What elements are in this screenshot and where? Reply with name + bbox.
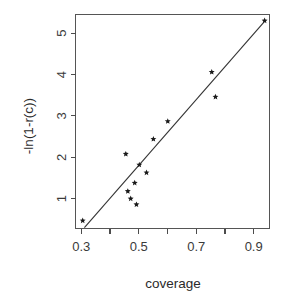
axis-ticks xyxy=(71,33,254,233)
data-point-marker xyxy=(133,201,139,207)
x-axis-title: coverage xyxy=(145,276,201,291)
y-tick-label: 1 xyxy=(54,195,69,202)
plot-box xyxy=(76,15,270,229)
y-tick-label: 3 xyxy=(54,112,69,119)
x-tick-label: 0.9 xyxy=(245,239,263,254)
data-point-marker xyxy=(128,196,134,202)
data-point-marker xyxy=(80,218,86,224)
x-tick-label: 0.7 xyxy=(187,239,205,254)
scatter-plot-figure: 0.30.50.70.9 12345 coverage -ln(1-r(c)) xyxy=(0,0,300,305)
y-tick-label: 4 xyxy=(54,71,69,78)
data-point-marker xyxy=(262,18,268,24)
data-point-marker xyxy=(213,94,219,100)
data-point-marker xyxy=(144,170,150,176)
data-points xyxy=(80,18,268,224)
diagonal-reference-line xyxy=(84,20,265,227)
data-point-marker xyxy=(209,69,215,75)
data-point-marker xyxy=(132,180,138,186)
y-axis-tick-labels: 12345 xyxy=(54,30,69,203)
y-tick-label: 2 xyxy=(54,154,69,161)
data-point-marker xyxy=(125,188,131,194)
plot-canvas: 0.30.50.70.9 12345 coverage -ln(1-r(c)) xyxy=(0,0,300,305)
reference-line xyxy=(84,20,265,227)
plot-frame xyxy=(76,15,270,229)
data-point-marker xyxy=(123,151,129,157)
y-tick-label: 5 xyxy=(54,30,69,37)
data-point-marker xyxy=(165,118,171,124)
data-point-marker xyxy=(150,136,156,142)
x-axis-tick-labels: 0.30.50.70.9 xyxy=(72,239,263,254)
x-tick-label: 0.3 xyxy=(72,239,90,254)
y-axis-title: -ln(1-r(c)) xyxy=(21,98,36,154)
x-tick-label: 0.5 xyxy=(130,239,148,254)
